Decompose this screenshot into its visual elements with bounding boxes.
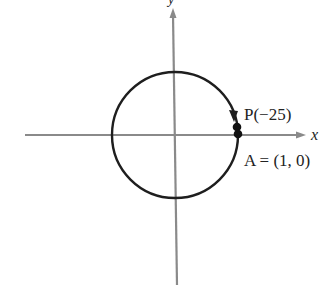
x-axis-label: x bbox=[310, 126, 318, 143]
point-a bbox=[234, 130, 243, 139]
y-axis bbox=[170, 8, 178, 285]
point-a-label: A = (1, 0) bbox=[244, 151, 310, 170]
y-axis-arrow-icon bbox=[170, 8, 177, 18]
point-p-label: P(−25) bbox=[244, 105, 291, 124]
x-axis bbox=[25, 132, 306, 139]
x-axis-arrow-icon bbox=[296, 132, 306, 139]
y-axis-label: y bbox=[166, 0, 175, 7]
unit-circle-diagram: x y P(−25) A = (1, 0) bbox=[0, 0, 330, 294]
